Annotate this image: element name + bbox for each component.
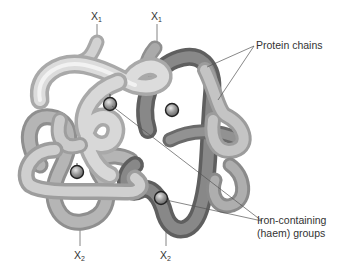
subunit-label-x1-right: X1 xyxy=(151,10,162,26)
haem-group-1 xyxy=(104,98,117,111)
haem-group-2 xyxy=(166,104,179,117)
haem-group-4 xyxy=(155,192,168,205)
hemoglobin-diagram: X1 X1 X2 X2 Protein chains Iron-containi… xyxy=(0,0,344,275)
callout-iron-line2: (haem) groups xyxy=(257,227,326,240)
haem-group-3 xyxy=(71,166,84,179)
callout-iron-groups: Iron-containing (haem) groups xyxy=(257,214,326,240)
callout-iron-line1: Iron-containing xyxy=(257,214,326,227)
subunit-label-x2-right: X2 xyxy=(160,249,171,265)
callout-protein-chains: Protein chains xyxy=(256,39,323,52)
subunit-label-x1-left: X1 xyxy=(91,10,102,26)
subunit-label-x2-left: X2 xyxy=(74,249,85,265)
